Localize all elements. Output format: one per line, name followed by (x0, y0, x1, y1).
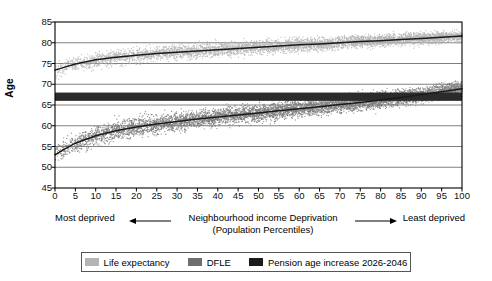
legend-item[interactable]: Life expectancy (85, 257, 170, 268)
y-tick-label: 85 (26, 17, 52, 27)
x-tick-label: 35 (187, 191, 207, 201)
x-tick-label: 100 (452, 191, 472, 201)
caption-most-deprived: Most deprived (55, 212, 115, 223)
y-tick-label: 75 (26, 59, 52, 69)
x-tick-label: 40 (208, 191, 228, 201)
x-tick-label: 75 (350, 191, 370, 201)
legend-label: DFLE (207, 257, 231, 268)
pension-age-band (55, 93, 462, 101)
legend-swatch-icon (249, 258, 263, 266)
legend-item[interactable]: Pension age increase 2026-2046 (249, 257, 407, 268)
x-tick-label: 5 (65, 191, 85, 201)
y-tick-label: 80 (26, 38, 52, 48)
y-tick-label: 50 (26, 162, 52, 172)
x-axis-caption: Most deprived Neighbourhood income Depri… (55, 210, 465, 242)
x-tick-label: 70 (330, 191, 350, 201)
chart-legend: Life expectancyDFLEPension age increase … (81, 252, 411, 272)
x-axis-tick-labels: 0510152025303540455055606570758085909510… (0, 191, 492, 203)
x-tick-label: 85 (391, 191, 411, 201)
x-tick-label: 25 (147, 191, 167, 201)
y-axis-title: Age (4, 68, 15, 108)
x-tick-label: 15 (106, 191, 126, 201)
x-tick-label: 50 (249, 191, 269, 201)
y-tick-label: 60 (26, 121, 52, 131)
x-tick-label: 45 (228, 191, 248, 201)
caption-least-deprived: Least deprived (403, 212, 465, 223)
legend-label: Pension age increase 2026-2046 (268, 257, 407, 268)
caption-axis-line1: Neighbourhood income Deprivation (173, 212, 353, 223)
left-arrow-icon (129, 217, 171, 225)
y-tick-label: 70 (26, 79, 52, 89)
x-tick-label: 60 (289, 191, 309, 201)
y-tick-label: 65 (26, 100, 52, 110)
chart-figure: Age 858075706560555045 05101520253035404… (0, 0, 492, 281)
y-tick-label: 55 (26, 142, 52, 152)
legend-swatch-icon (188, 258, 202, 266)
x-tick-label: 90 (411, 191, 431, 201)
x-tick-label: 30 (167, 191, 187, 201)
x-tick-label: 10 (86, 191, 106, 201)
x-tick-label: 80 (371, 191, 391, 201)
legend-item[interactable]: DFLE (188, 257, 231, 268)
right-arrow-icon (355, 217, 397, 225)
x-tick-label: 20 (126, 191, 146, 201)
x-tick-label: 95 (432, 191, 452, 201)
caption-axis-line2: (Population Percentiles) (173, 224, 353, 235)
legend-label: Life expectancy (104, 257, 170, 268)
x-tick-label: 0 (45, 191, 65, 201)
y-axis-tick-labels: 858075706560555045 (22, 0, 52, 281)
x-tick-label: 65 (310, 191, 330, 201)
legend-swatch-icon (85, 258, 99, 266)
x-tick-label: 55 (269, 191, 289, 201)
